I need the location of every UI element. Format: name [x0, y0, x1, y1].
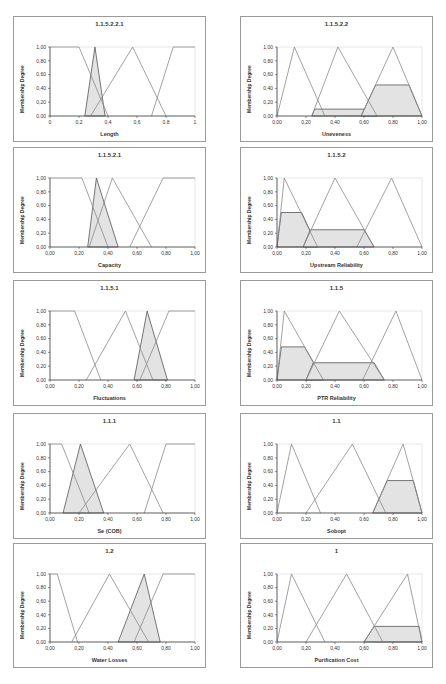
y-tick-label: 0,00 — [36, 113, 46, 119]
x-tick-label: 0,20 — [74, 250, 84, 256]
y-tick-label: 0,00 — [263, 639, 273, 645]
membership-function-line — [152, 47, 196, 116]
chart-title: 1.1.5.2 — [241, 152, 432, 158]
y-tick-label: 1,00 — [263, 44, 273, 50]
x-tick-label: 0,00 — [272, 516, 282, 522]
x-tick-label: 0,60 — [132, 516, 142, 522]
y-tick-label: 0,80 — [36, 322, 46, 328]
membership-plot: 0,000,200,400,600,801,000,000,200,400,60… — [241, 544, 434, 669]
y-tick-label: 0,80 — [263, 455, 273, 461]
chart-title: 1.1.5.1 — [14, 285, 205, 291]
x-tick-label: 0,60 — [359, 383, 369, 389]
x-tick-label: 0,40 — [103, 645, 113, 651]
x-tick-label: 0,80 — [161, 250, 171, 256]
x-axis-label: Upstream Reliability — [241, 262, 432, 268]
x-tick-label: 0,20 — [301, 645, 311, 651]
y-tick-label: 1,00 — [263, 441, 273, 447]
y-tick-label: 1,00 — [263, 308, 273, 314]
y-tick-label: 0,20 — [36, 625, 46, 631]
x-tick-label: 0,80 — [388, 516, 398, 522]
chart-panel: 0,000,200,400,600,801,000,000,200,400,60… — [13, 147, 206, 273]
membership-plot: 0,000,200,400,600,801,000,000,200,400,60… — [14, 281, 207, 407]
y-tick-label: 0,80 — [36, 455, 46, 461]
x-tick-label: 1,00 — [190, 383, 200, 389]
y-tick-label: 0,80 — [263, 584, 273, 590]
y-tick-label: 0,00 — [263, 113, 273, 119]
membership-plot: 0,000,200,400,600,801,0000,20,40,60,81 — [14, 17, 207, 143]
x-tick-label: 0,20 — [301, 516, 311, 522]
chart-panel: 0,000,200,400,600,801,0000,20,40,60,811.… — [13, 16, 206, 142]
chart-panel: 0,000,200,400,600,801,000,000,200,400,60… — [240, 543, 433, 668]
y-tick-label: 0,40 — [263, 216, 273, 222]
membership-function-line — [277, 574, 325, 642]
x-tick-label: 1,00 — [190, 516, 200, 522]
y-tick-label: 0,40 — [263, 612, 273, 618]
y-tick-label: 0,80 — [36, 584, 46, 590]
x-tick-label: 0,4 — [105, 119, 112, 125]
x-tick-label: 0,20 — [301, 119, 311, 125]
x-tick-label: 0,00 — [272, 645, 282, 651]
y-tick-label: 1,00 — [263, 571, 273, 577]
y-tick-label: 1,00 — [263, 175, 273, 181]
y-tick-label: 0,40 — [36, 349, 46, 355]
y-axis-label: Membership Degree — [19, 196, 25, 244]
chart-panel: 0,000,200,400,600,801,000,000,200,400,60… — [13, 543, 206, 668]
x-axis-label: Fluctuations — [14, 395, 205, 401]
x-axis-label: Uneveness — [241, 131, 432, 137]
y-tick-label: 0,80 — [36, 58, 46, 64]
y-axis-label: Membership Degree — [19, 591, 25, 639]
shaded-area — [306, 363, 384, 380]
x-tick-label: 0,80 — [388, 250, 398, 256]
y-tick-label: 0,80 — [263, 189, 273, 195]
y-tick-label: 0,60 — [36, 335, 46, 341]
y-tick-label: 0,20 — [36, 363, 46, 369]
shaded-area — [118, 574, 160, 642]
y-tick-label: 0,60 — [263, 598, 273, 604]
y-axis-label: Membership Degree — [246, 65, 252, 113]
x-tick-label: 1,00 — [417, 516, 427, 522]
x-tick-label: 0,8 — [163, 119, 170, 125]
y-tick-label: 0,60 — [36, 71, 46, 77]
membership-function-line — [144, 444, 195, 513]
y-tick-label: 1,00 — [36, 44, 46, 50]
membership-plot: 0,000,200,400,600,801,000,000,200,400,60… — [14, 544, 207, 669]
y-tick-label: 0,00 — [263, 377, 273, 383]
membership-function-line — [50, 574, 78, 642]
chart-title: 1.1.1 — [14, 418, 205, 424]
membership-function-line — [277, 444, 321, 513]
chart-panel: 0,000,200,400,600,801,000,000,200,400,60… — [13, 280, 206, 406]
y-tick-label: 0,20 — [36, 230, 46, 236]
x-tick-label: 0,20 — [301, 250, 311, 256]
y-tick-label: 0,20 — [263, 496, 273, 502]
y-tick-label: 0,00 — [263, 244, 273, 250]
y-tick-label: 1,00 — [36, 308, 46, 314]
x-tick-label: 0,60 — [132, 250, 142, 256]
y-tick-label: 0,00 — [36, 377, 46, 383]
x-axis-label: Purification Cost — [241, 657, 432, 663]
y-tick-label: 0,40 — [36, 482, 46, 488]
chart-title: 1.1 — [241, 418, 432, 424]
x-tick-label: 0,60 — [359, 516, 369, 522]
membership-plot: 0,000,200,400,600,801,000,000,200,400,60… — [14, 148, 207, 274]
y-tick-label: 0,60 — [263, 335, 273, 341]
x-tick-label: 0,80 — [161, 516, 171, 522]
membership-plot: 0,000,200,400,600,801,000,000,200,400,60… — [241, 148, 434, 274]
x-tick-label: 0,40 — [330, 250, 340, 256]
y-tick-label: 0,60 — [263, 468, 273, 474]
x-tick-label: 0,80 — [388, 119, 398, 125]
membership-function-line — [50, 311, 101, 380]
y-tick-label: 0,40 — [263, 85, 273, 91]
membership-function-line — [306, 444, 386, 513]
y-tick-label: 0,20 — [36, 99, 46, 105]
chart-title: 1.1.5.2.2 — [241, 21, 432, 27]
y-axis-label: Membership Degree — [246, 462, 252, 510]
x-tick-label: 0,20 — [301, 383, 311, 389]
x-axis-label: Se (COB) — [14, 528, 205, 534]
y-tick-label: 0,00 — [36, 244, 46, 250]
x-tick-label: 0,40 — [330, 383, 340, 389]
x-tick-label: 0,00 — [45, 645, 55, 651]
membership-plot: 0,000,200,400,600,801,000,000,200,400,60… — [241, 17, 434, 143]
chart-panel: 0,000,200,400,600,801,000,000,200,400,60… — [240, 413, 433, 539]
x-tick-label: 1,00 — [417, 119, 427, 125]
x-tick-label: 0,00 — [272, 119, 282, 125]
